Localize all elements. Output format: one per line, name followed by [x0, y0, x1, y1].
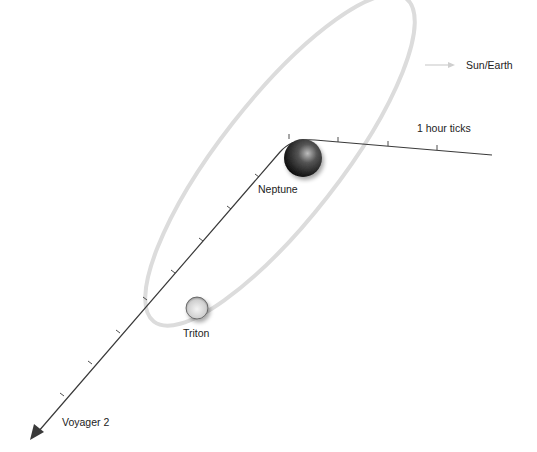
- voyager-label: Voyager 2: [62, 416, 109, 428]
- neptune-label: Neptune: [258, 183, 298, 195]
- hour-ticks-label: 1 hour ticks: [417, 122, 471, 134]
- voyager-trajectory: [30, 134, 492, 440]
- triton-orbit: [107, 0, 454, 358]
- triton-moon: [186, 297, 208, 319]
- sun-earth-arrow: [425, 62, 455, 68]
- diagram-canvas: [0, 0, 537, 452]
- hour-ticks: [60, 134, 437, 396]
- sun-earth-label: Sun/Earth: [466, 59, 513, 71]
- triton-label: Triton: [183, 327, 209, 339]
- voyager-neptune-flyby-diagram: Sun/Earth 1 hour ticks Neptune Triton Vo…: [0, 0, 537, 452]
- neptune-planet: [284, 139, 322, 177]
